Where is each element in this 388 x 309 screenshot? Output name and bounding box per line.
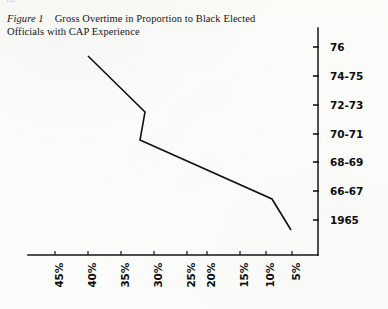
x-axis-label-10pct: 10%	[264, 263, 276, 288]
x-axis-label-35pct: 35%	[119, 263, 131, 288]
x-axis-label-5pct: 5%	[290, 263, 302, 280]
figure-page: 102 Figure 1Gross Overtime in Proportion…	[0, 0, 388, 309]
x-axis-label-45pct: 45%	[53, 263, 65, 288]
x-axis-label-20pct: 20%	[205, 263, 217, 288]
data-series-line	[88, 56, 291, 230]
y-axis-label-72-73: 72-73	[330, 99, 363, 111]
x-axis-label-30pct: 30%	[152, 263, 164, 288]
y-axis-label-74-75: 74-75	[330, 70, 363, 82]
x-axis-label-25pct: 25%	[185, 263, 197, 288]
y-axis-label-68-69: 68-69	[330, 156, 363, 168]
y-axis-label-1965: 1965	[330, 214, 359, 226]
x-axis-label-15pct: 15%	[238, 263, 250, 288]
y-axis-label-66-67: 66-67	[330, 185, 363, 197]
y-axis-label-76: 76	[330, 41, 344, 53]
y-axis-label-70-71: 70-71	[330, 128, 363, 140]
x-axis-label-40pct: 40%	[86, 263, 98, 288]
